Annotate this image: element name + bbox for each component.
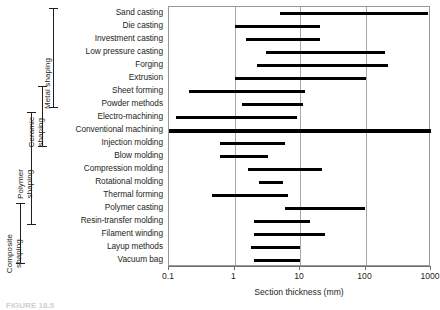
- range-bar: [235, 77, 366, 80]
- group-bracket-column: Metal shapingCeramic shapingPolymer shap…: [0, 0, 62, 283]
- range-bar: [248, 168, 323, 171]
- range-bar: [246, 38, 320, 41]
- process-label: Thermal forming: [62, 188, 166, 201]
- process-label: Sheet forming: [62, 84, 166, 97]
- x-axis-tick: [168, 266, 169, 270]
- range-bar: [220, 142, 286, 145]
- range-bar: [254, 233, 325, 236]
- x-axis-tick-label: 1000: [420, 271, 439, 281]
- group-label: Polymer shaping: [16, 169, 34, 199]
- x-axis-tick: [430, 266, 431, 270]
- process-label: Compression molding: [62, 162, 166, 175]
- process-label: Low pressure casting: [62, 45, 166, 58]
- range-bar: [235, 25, 320, 28]
- process-label: Powder methods: [62, 97, 166, 110]
- process-label: Electro-machining: [62, 110, 166, 123]
- range-bar: [259, 181, 283, 184]
- process-label: Blow molding: [62, 149, 166, 162]
- range-bar: [212, 194, 288, 197]
- process-label: Conventional machining: [62, 123, 166, 136]
- range-bar: [254, 259, 300, 262]
- range-bar: [254, 220, 309, 223]
- range-bar: [169, 129, 431, 133]
- x-axis-tick-label: 0.1: [162, 271, 174, 281]
- process-label: Vacuum bag: [62, 253, 166, 266]
- range-bar: [266, 51, 385, 54]
- x-axis-tick-label: 1: [231, 271, 236, 281]
- process-label: Forging: [62, 58, 166, 71]
- x-axis-tick-label: 100: [357, 271, 371, 281]
- process-family-group: Composite shaping: [0, 203, 62, 264]
- process-label: Extrusion: [62, 71, 166, 84]
- process-label: Injection molding: [62, 136, 166, 149]
- gridline: [235, 7, 236, 265]
- process-label: Layup methods: [62, 240, 166, 253]
- process-label: Die casting: [62, 19, 166, 32]
- process-label: Sand casting: [62, 6, 166, 19]
- range-bar: [242, 103, 303, 106]
- x-axis-tick-label: 10: [294, 271, 304, 281]
- x-axis-tick: [299, 266, 300, 270]
- range-bar: [257, 64, 388, 67]
- process-label: Investment casting: [62, 32, 166, 45]
- process-label: Filament winding: [62, 227, 166, 240]
- gridline: [300, 7, 301, 265]
- process-label: Rotational molding: [62, 175, 166, 188]
- range-bar: [251, 246, 300, 249]
- process-label-column: Sand castingDie castingInvestment castin…: [62, 6, 166, 266]
- plot-area: [168, 6, 430, 266]
- process-label: Polymer casting: [62, 201, 166, 214]
- range-bar: [285, 207, 365, 210]
- gridline: [366, 7, 367, 265]
- range-bar: [280, 12, 428, 15]
- x-axis-tick: [234, 266, 235, 270]
- x-axis-tick: [365, 266, 366, 270]
- x-axis-title: Section thickness (mm): [168, 287, 430, 297]
- process-label: Resin-transfer molding: [62, 214, 166, 227]
- figure-caption: FIGURE 18.5: [6, 301, 54, 310]
- range-bar: [176, 116, 297, 119]
- group-label: Composite shaping: [5, 234, 23, 273]
- range-bar: [189, 90, 305, 93]
- range-bar: [220, 155, 268, 158]
